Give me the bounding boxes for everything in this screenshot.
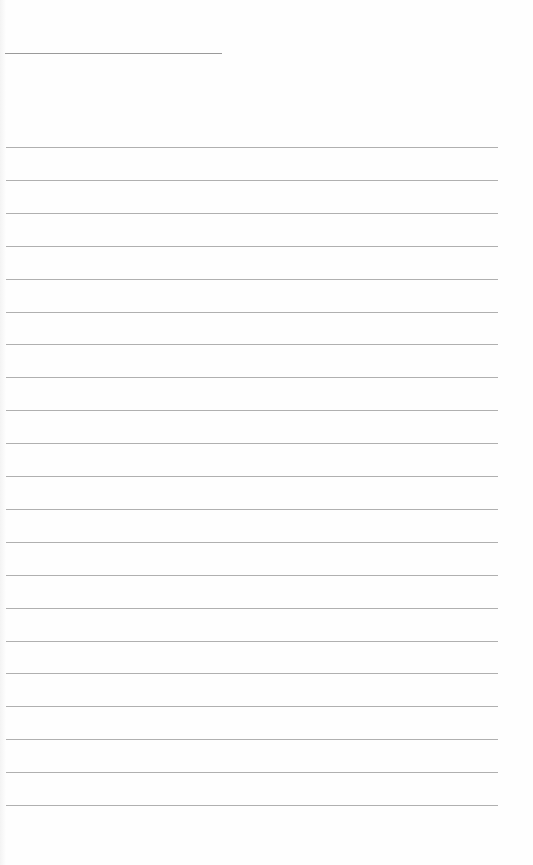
ruled-line [6,476,498,477]
ruled-line [6,608,498,609]
ruled-line [6,344,498,345]
ruled-line [6,213,498,214]
ruled-line [6,312,498,313]
ruled-line [6,739,498,740]
ruled-line [6,805,498,806]
ruled-line [6,575,498,576]
ruled-line [6,246,498,247]
title-rule [5,53,222,54]
ruled-line [6,772,498,773]
ruled-line [6,542,498,543]
lined-page [0,0,533,865]
ruled-line [6,410,498,411]
ruled-line [6,443,498,444]
page-edge-shadow [0,0,6,865]
ruled-line [6,279,498,280]
ruled-line [6,641,498,642]
ruled-line [6,673,498,674]
ruled-line [6,147,498,148]
ruled-line [6,377,498,378]
ruled-line [6,509,498,510]
ruled-line [6,180,498,181]
ruled-line [6,706,498,707]
